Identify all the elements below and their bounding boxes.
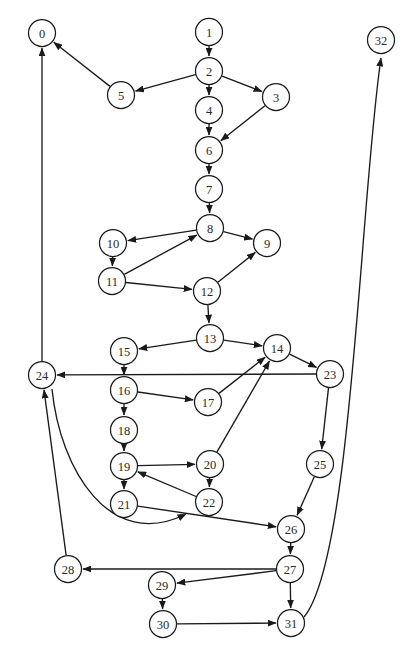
graph-node-1[interactable]: 1 (196, 19, 223, 46)
node-label-1: 1 (206, 26, 212, 40)
edge-13-to-15 (139, 340, 196, 349)
edge-27-to-29 (177, 571, 276, 583)
node-label-18: 18 (118, 424, 131, 438)
node-label-28: 28 (62, 563, 75, 577)
graph-node-28[interactable]: 28 (55, 556, 82, 583)
edge-19-to-20 (138, 464, 195, 465)
node-label-19: 19 (118, 460, 131, 474)
graph-node-25[interactable]: 25 (307, 451, 334, 478)
node-label-14: 14 (271, 342, 284, 356)
node-label-0: 0 (39, 27, 45, 41)
edge-5-to-0 (54, 42, 110, 86)
edge-22-to-19 (138, 472, 196, 497)
node-label-30: 30 (157, 618, 170, 632)
graph-node-9[interactable]: 9 (254, 230, 281, 257)
edge-23-to-24 (57, 374, 316, 375)
node-label-25: 25 (314, 458, 327, 472)
graph-node-17[interactable]: 17 (195, 389, 222, 416)
graph-node-19[interactable]: 19 (111, 453, 138, 480)
node-label-15: 15 (118, 345, 131, 359)
edge-8-to-9 (224, 232, 253, 240)
graph-node-3[interactable]: 3 (263, 84, 290, 111)
node-label-10: 10 (107, 237, 120, 251)
graph-node-31[interactable]: 31 (278, 610, 305, 637)
graph-node-14[interactable]: 14 (264, 335, 291, 362)
edge-3-to-6 (221, 106, 265, 141)
graph-node-27[interactable]: 27 (277, 556, 304, 583)
node-label-23: 23 (324, 368, 337, 382)
node-label-8: 8 (207, 222, 213, 236)
node-label-22: 22 (203, 496, 216, 510)
edge-14-to-23 (290, 354, 317, 367)
edge-8-to-10 (128, 230, 196, 241)
node-label-7: 7 (206, 183, 212, 197)
edge-23-to-25 (322, 388, 329, 449)
graph-node-8[interactable]: 8 (197, 215, 224, 242)
graph-node-26[interactable]: 26 (278, 516, 305, 543)
node-label-4: 4 (206, 104, 213, 118)
edge-31-to-32 (304, 58, 381, 617)
node-label-11: 11 (106, 275, 118, 289)
graph-node-20[interactable]: 20 (197, 451, 224, 478)
graph-node-2[interactable]: 2 (196, 58, 223, 85)
edge-2-to-5 (136, 75, 196, 91)
graph-node-13[interactable]: 13 (197, 325, 224, 352)
edge-12-to-9 (218, 252, 255, 282)
edge-16-to-17 (138, 392, 193, 400)
graph-node-15[interactable]: 15 (111, 338, 138, 365)
graph-node-22[interactable]: 22 (196, 489, 223, 516)
graph-node-32[interactable]: 32 (368, 27, 395, 54)
edge-30-to-31 (177, 623, 276, 624)
node-label-2: 2 (206, 65, 212, 79)
node-label-16: 16 (118, 384, 131, 398)
graph-node-21[interactable]: 21 (111, 491, 138, 518)
node-label-3: 3 (273, 91, 279, 105)
edge-11-to-8 (124, 235, 197, 274)
graph-node-6[interactable]: 6 (196, 137, 223, 164)
graph-node-5[interactable]: 5 (108, 82, 135, 109)
node-label-17: 17 (202, 396, 215, 410)
graph-node-0[interactable]: 0 (29, 20, 56, 47)
graph-node-7[interactable]: 7 (196, 176, 223, 203)
graph-node-4[interactable]: 4 (196, 97, 223, 124)
graph-node-12[interactable]: 12 (194, 278, 221, 305)
node-label-9: 9 (264, 237, 270, 251)
graph-canvas: 0123456789101112131415161718192021222324… (0, 0, 415, 654)
edge-17-to-14 (219, 357, 265, 393)
nodes-layer: 0123456789101112131415161718192021222324… (29, 19, 395, 638)
node-label-27: 27 (284, 563, 297, 577)
edge-2-to-3 (222, 76, 262, 92)
graph-node-24[interactable]: 24 (29, 362, 56, 389)
edge-12-to-13 (208, 305, 209, 323)
graph-node-23[interactable]: 23 (317, 361, 344, 388)
node-label-20: 20 (204, 458, 217, 472)
node-label-31: 31 (285, 617, 298, 631)
graph-node-30[interactable]: 30 (150, 611, 177, 638)
directed-graph-svg: 0123456789101112131415161718192021222324… (0, 0, 415, 654)
node-label-32: 32 (375, 34, 388, 48)
edge-28-to-24 (44, 390, 66, 555)
graph-node-18[interactable]: 18 (111, 417, 138, 444)
graph-node-11[interactable]: 11 (99, 268, 126, 295)
node-label-5: 5 (118, 89, 124, 103)
graph-node-29[interactable]: 29 (149, 572, 176, 599)
node-label-29: 29 (156, 579, 169, 593)
edge-13-to-14 (224, 340, 262, 346)
node-label-12: 12 (201, 285, 214, 299)
node-label-26: 26 (285, 523, 298, 537)
node-label-24: 24 (36, 369, 49, 383)
graph-node-10[interactable]: 10 (100, 230, 127, 257)
edge-11-to-12 (126, 283, 192, 290)
node-label-21: 21 (118, 498, 131, 512)
graph-node-16[interactable]: 16 (111, 377, 138, 404)
edge-25-to-26 (297, 477, 314, 516)
node-label-13: 13 (204, 332, 217, 346)
node-label-6: 6 (206, 144, 212, 158)
